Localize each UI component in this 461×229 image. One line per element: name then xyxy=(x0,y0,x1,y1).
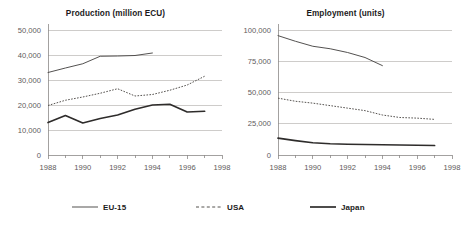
legend-label-eu15: EU-15 xyxy=(103,203,126,212)
x-tick-label: 1988 xyxy=(270,163,287,172)
y-tick-label: 75,000 xyxy=(248,57,271,66)
legend-line-eu15-icon xyxy=(72,204,98,210)
legend-line-japan-icon xyxy=(310,204,336,210)
series-line-eu-15 xyxy=(48,53,152,73)
y-tick-label: 25,000 xyxy=(248,119,271,128)
series-line-japan xyxy=(278,138,435,145)
figure-two-line-charts: Production (million ECU) 010,00020,00030… xyxy=(0,0,461,229)
x-tick-label: 1990 xyxy=(304,163,321,172)
chart-panel-employment: Employment (units) 025,00050,00075,00010… xyxy=(230,0,461,190)
x-tick-label: 1996 xyxy=(409,163,426,172)
x-tick-label: 1994 xyxy=(144,163,161,172)
x-tick-label: 1988 xyxy=(40,163,57,172)
series-line-usa xyxy=(48,76,205,105)
legend-item-eu15: EU-15 xyxy=(72,199,126,215)
x-tick-label: 1998 xyxy=(214,163,231,172)
y-tick-label: 50,000 xyxy=(248,88,271,97)
series-line-japan xyxy=(48,104,205,123)
x-tick-label: 1992 xyxy=(109,163,126,172)
x-tick-label: 1990 xyxy=(74,163,91,172)
y-tick-label: 20,000 xyxy=(18,101,41,110)
y-tick-label: 10,000 xyxy=(18,126,41,135)
chart-legend: EU-15 USA Japan xyxy=(0,190,461,229)
x-tick-label: 1994 xyxy=(374,163,391,172)
x-tick-label: 1996 xyxy=(179,163,196,172)
plot-area-employment: 025,00050,00075,000100,00019881990199219… xyxy=(230,0,461,190)
x-tick-label: 1992 xyxy=(339,163,356,172)
series-line-usa xyxy=(278,98,435,119)
legend-item-japan: Japan xyxy=(310,199,365,215)
plot-area-production: 010,00020,00030,00040,00050,000198819901… xyxy=(0,0,231,190)
legend-item-usa: USA xyxy=(196,199,244,215)
y-tick-label: 0 xyxy=(267,151,271,160)
x-tick-label: 1998 xyxy=(444,163,461,172)
chart-panel-production: Production (million ECU) 010,00020,00030… xyxy=(0,0,231,190)
y-tick-label: 50,000 xyxy=(18,26,41,35)
legend-line-usa-icon xyxy=(196,204,222,210)
y-tick-label: 40,000 xyxy=(18,51,41,60)
legend-label-japan: Japan xyxy=(341,203,365,212)
y-tick-label: 0 xyxy=(37,151,41,160)
chart-panels: Production (million ECU) 010,00020,00030… xyxy=(0,0,461,190)
y-tick-label: 100,000 xyxy=(244,26,271,35)
y-tick-label: 30,000 xyxy=(18,76,41,85)
legend-label-usa: USA xyxy=(227,203,244,212)
